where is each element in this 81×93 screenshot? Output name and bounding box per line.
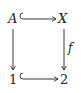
node-a: A (8, 12, 17, 25)
label-f: f (68, 42, 72, 55)
node-1: 1 (9, 73, 17, 86)
node-2: 2 (60, 73, 68, 86)
arrow-1-to-2 (20, 73, 58, 79)
arrow-a-to-x (20, 13, 56, 19)
node-x: X (58, 12, 67, 25)
